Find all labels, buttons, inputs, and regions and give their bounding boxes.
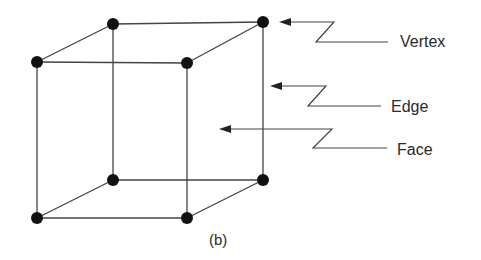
vertex-label: Vertex [400, 34, 445, 50]
edge-label: Edge [391, 99, 428, 115]
figure-caption: (b) [209, 232, 227, 247]
leader-lines [228, 22, 388, 148]
cube-diagram: Vertex Edge Face (b) [0, 0, 481, 260]
vertex-leader [288, 22, 388, 42]
arrowheads [219, 18, 291, 133]
face-leader [228, 129, 387, 148]
cube-edges [37, 22, 263, 218]
arrow-icon [270, 82, 282, 90]
arrow-icon [219, 125, 231, 133]
edge-leader [279, 86, 381, 106]
face-label: Face [397, 142, 433, 158]
arrow-icon [279, 18, 291, 26]
